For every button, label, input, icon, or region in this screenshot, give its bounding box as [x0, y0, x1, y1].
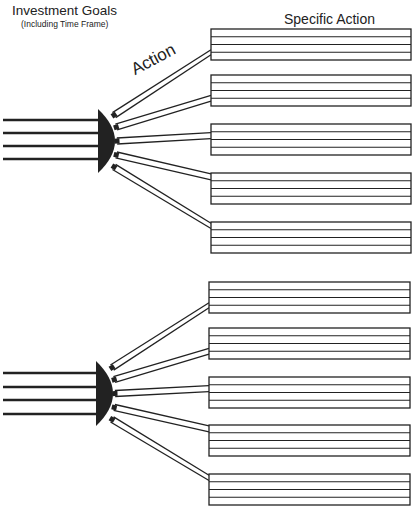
action-connector-line	[116, 158, 211, 180]
action-connector-line	[117, 133, 211, 138]
action-connector-line	[112, 169, 211, 228]
specific-action-title: Specific Action	[284, 11, 375, 27]
action-connector-line	[114, 308, 209, 370]
investment-goals-subtitle: (Including Time Frame)	[21, 19, 108, 29]
action-connector-line	[115, 392, 209, 397]
action-connector-line	[117, 139, 211, 144]
action-connector-line	[113, 348, 209, 376]
action-connector-line	[115, 386, 209, 391]
action-connector-line	[116, 164, 211, 223]
action-connector-line	[115, 95, 211, 124]
hub-connector	[98, 109, 115, 173]
action-connector-line	[115, 404, 209, 425]
connector-tab	[112, 391, 117, 396]
action-connector-line	[115, 354, 209, 382]
action-connector-line	[117, 152, 211, 174]
connector-tab	[114, 138, 119, 143]
action-connector-line	[110, 303, 209, 365]
action-connector-line	[110, 422, 209, 480]
investment-goals-title: Investment Goals	[12, 3, 117, 18]
hub-connector	[96, 361, 113, 426]
diagram-canvas	[0, 0, 419, 509]
action-connector-line	[114, 410, 209, 431]
action-connector-line	[117, 101, 211, 130]
action-connector-line	[114, 417, 209, 475]
